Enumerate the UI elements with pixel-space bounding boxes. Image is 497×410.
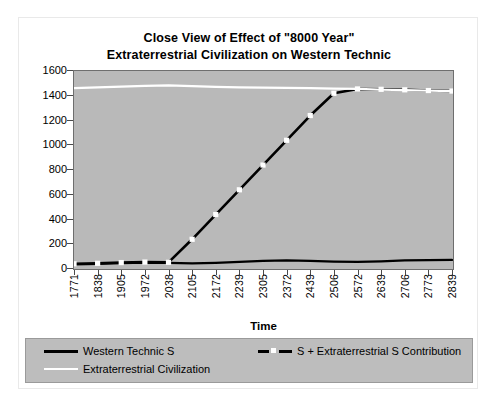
x-tick-label: 2506 [328,274,340,298]
y-tick-label: 1000 [19,138,67,150]
legend-dash-right [279,350,292,353]
y-tick-label: 600 [19,188,67,200]
legend-swatch-solid-black [44,346,78,356]
y-tick-label: 200 [19,237,67,249]
series-canvas [74,71,453,269]
x-tick-label: 2839 [446,274,458,298]
chart-container: Close View of Effect of "8000 Year" Extr… [18,17,478,389]
legend-line [44,350,78,353]
y-tick-label: 400 [19,213,67,225]
x-tick-label: 2572 [352,274,364,298]
series-marker [119,260,124,265]
series-marker [308,113,313,118]
series-marker [237,187,242,192]
legend-item[interactable]: Western Technic S [44,345,174,357]
y-tick-label: 1200 [19,114,67,126]
chart-title-line-2: Extraterrestrial Civilization on Western… [19,47,479,64]
x-tick-label: 1771 [68,274,80,298]
x-tick-label: 1838 [92,274,104,298]
series-marker [190,237,195,242]
chart-title-line-1: Close View of Effect of "8000 Year" [19,30,479,47]
y-tick-label: 1600 [19,64,67,76]
chart-title: Close View of Effect of "8000 Year" Extr… [19,30,479,64]
legend-swatch-solid-white [44,364,78,374]
series-marker [260,162,265,167]
legend-item[interactable]: S + Extraterrestrial S Contribution [258,345,461,357]
series-marker [284,138,289,143]
x-tick-label: 2172 [210,274,222,298]
series-line [74,89,452,264]
legend-marker [271,348,276,353]
legend-swatch-dashed-marker [258,346,292,356]
plot-area [73,70,454,270]
x-tick-label: 2706 [399,274,411,298]
legend-dash-left [258,350,269,353]
legend-label: Western Technic S [83,345,174,357]
legend-label: S + Extraterrestrial S Contribution [297,345,461,357]
x-axis-title: Time [73,320,454,332]
x-tick-label: 2305 [257,274,269,298]
legend-label: Extraterrestrial Civilization [83,363,210,375]
series-marker [331,91,336,96]
series-marker [142,259,147,264]
x-tick-label: 2639 [375,274,387,298]
series-marker [95,261,100,266]
legend-line [44,368,78,370]
x-tick-label: 2239 [233,274,245,298]
legend-item[interactable]: Extraterrestrial Civilization [44,363,210,375]
y-axis-tick-labels: 02004006008001000120014001600 [19,63,67,278]
x-tick-label: 2105 [186,274,198,298]
x-axis-tick-labels: 1771183819051972203821052172223923052372… [73,274,456,320]
x-tick-label: 2372 [281,274,293,298]
series-line [74,85,452,91]
x-tick-label: 2773 [422,274,434,298]
series-marker [74,261,77,266]
x-tick-label: 1972 [139,274,151,298]
y-tick-label: 0 [19,262,67,274]
x-tick-label: 1905 [115,274,127,298]
x-tick-label: 2439 [304,274,316,298]
series-marker [166,260,171,265]
series-marker [213,212,218,217]
y-tick-label: 1400 [19,89,67,101]
y-tick-label: 800 [19,163,67,175]
x-tick-label: 2038 [163,274,175,298]
chart-legend: Western Technic SS + Extraterrestrial S … [25,338,473,383]
